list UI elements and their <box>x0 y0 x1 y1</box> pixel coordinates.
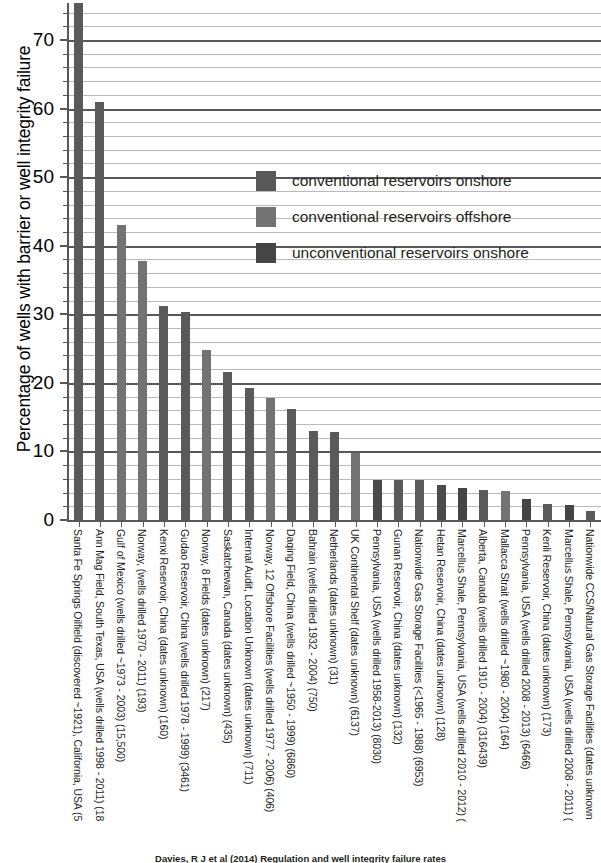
x-category-label: Nationwide CCS/Natural Gas Storage Facil… <box>584 529 595 819</box>
legend-label: conventional reservoirs offshore <box>292 208 511 226</box>
x-category-label: UK Continental Shelf (dates unknown) (61… <box>350 529 361 736</box>
x-category-label: Pennsylvania, USA (wells drilled 1958-20… <box>371 529 382 764</box>
x-category-label: Marcellus Shale, Pennsylvania, USA (well… <box>457 529 468 822</box>
x-category-label: Internal Audit, Location Unknown (dates … <box>243 529 254 784</box>
x-category-label: Norway, (wells drilled 1970 - 2011) (193… <box>137 529 148 712</box>
x-category-label: Gunan Reservoir, China (dates unknown) (… <box>393 529 404 745</box>
x-category-label: Mallacca Strait (wells drilled ~1980 - 2… <box>499 529 510 750</box>
legend-label: unconventional reservoirs onshore <box>292 244 529 262</box>
x-category-label: Nationwide Gas Storage Facilities (<1965… <box>414 529 425 786</box>
x-category-label: Kenli Reservoir, China (dates unknown) (… <box>542 529 553 736</box>
x-category-label: Norway, 12 Offshore Facilities (wells dr… <box>265 529 276 812</box>
x-category-label: Bahrain (wells drilled 1932 - 2004) (750… <box>307 529 318 712</box>
x-category-label: Marcellus Shale, Pennsylvania, USA (well… <box>563 529 574 821</box>
x-category-label: Daqing Field, China (wells drilled ~1950… <box>286 529 297 778</box>
x-category-label: Ann Mag Field, South Texas, USA (wells d… <box>94 529 105 821</box>
legend-item: unconventional reservoirs onshore <box>256 235 556 271</box>
x-axis-category-labels: Santa Fe Springs Oilfield (discovered ~1… <box>0 0 601 863</box>
x-category-label: Gudao Reservoir, China (wells drilled 19… <box>179 529 190 792</box>
legend-item: conventional reservoirs offshore <box>256 199 556 235</box>
x-category-label: Alberta, Canada (wells drilled 1910 - 20… <box>478 529 489 768</box>
legend-swatch-conventional-offshore <box>256 207 276 227</box>
legend-swatch-unconventional-onshore <box>256 243 276 263</box>
x-category-label: Santa Fe Springs Oilfield (discovered ~1… <box>73 529 84 821</box>
chart-legend: conventional reservoirs onshore conventi… <box>256 163 556 271</box>
figure-caption: Davies, R J et al (2014) Regulation and … <box>0 853 601 863</box>
x-category-label: Norway, 8 Fields (dates unknown) (217) <box>201 529 212 711</box>
x-category-label: Kenxi Reservoir, China (dates unknown) (… <box>158 529 169 739</box>
x-category-label: Netherlands (dates unknown) (31) <box>329 529 340 685</box>
legend-swatch-conventional-onshore <box>256 171 276 191</box>
legend-label: conventional reservoirs onshore <box>292 172 512 190</box>
x-category-label: Hetan Reservoir, China (dates unknown) (… <box>435 529 446 741</box>
chart-page: Percentage of wells with barrier or well… <box>0 0 601 863</box>
x-category-label: Pennsylvania, USA (wells drilled 2008 - … <box>520 529 531 770</box>
x-category-label: Saskatchewan, Canada (dates unknown) (43… <box>222 529 233 744</box>
x-category-label: Gulf of Mexico (wells drilled ~1973 - 20… <box>115 529 126 762</box>
legend-item: conventional reservoirs onshore <box>256 163 556 199</box>
